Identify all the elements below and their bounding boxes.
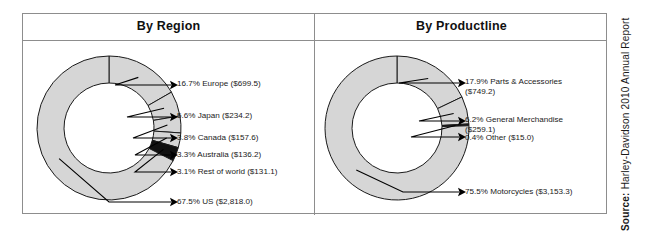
slice-label-line: 75.5% Motorcycles ($3,153.3) [465,187,573,197]
slice-label: 3.3% Australia ($136.2) [177,150,261,160]
slice-label: 5.6% Japan ($234.2) [177,111,252,121]
slice-label: 16.7% Europe ($699.5) [177,79,261,89]
slice-label-line: 3.1% Rest of world ($131.1) [177,167,277,177]
slice-label: 3.1% Rest of world ($131.1) [177,167,277,177]
donut-chart-by-region: 16.7% Europe ($699.5)5.6% Japan ($234.2)… [23,41,314,215]
slice-label-line: 17.9% Parts & Accessories [465,77,562,87]
slice-label-line: 3.8% Canada ($157.6) [177,133,258,143]
slice-label-line: 6.2% General Merchandise [465,115,563,125]
slice-label-line: 3.3% Australia ($136.2) [177,150,261,160]
donut-svg [23,41,314,215]
slice-label: 6.2% General Merchandise($259.1) [465,115,563,134]
source-note: Source: Harley-Davidson 2010 Annual Repo… [612,0,638,231]
slice-label: 17.9% Parts & Accessories($749.2) [465,77,562,96]
figure-root: By Region By Productline 16.7% Europe ($… [0,0,645,231]
slice-label: 3.8% Canada ($157.6) [177,133,258,143]
slice-label-line: 16.7% Europe ($699.5) [177,79,261,89]
slice-label: 67.5% US ($2,818.0) [177,197,253,207]
chart-frame: By Region By Productline 16.7% Europe ($… [22,13,607,214]
slice-label-line: 67.5% US ($2,818.0) [177,197,253,207]
slice-label-line: ($749.2) [465,87,562,97]
source-text: Harley-Davidson 2010 Annual Report [620,17,631,189]
donut-chart-by-productline: 17.9% Parts & Accessories($749.2)6.2% Ge… [315,41,608,215]
slice-label-line: 5.6% Japan ($234.2) [177,111,252,121]
slice-label: 0.4% Other ($15.0) [465,133,534,143]
source-prefix: Source: [620,192,631,231]
slice-label: 75.5% Motorcycles ($3,153.3) [465,187,573,197]
slice-label-line: 0.4% Other ($15.0) [465,133,534,143]
panel-title-region: By Region [23,19,314,33]
panel-title-productline: By Productline [315,19,608,33]
